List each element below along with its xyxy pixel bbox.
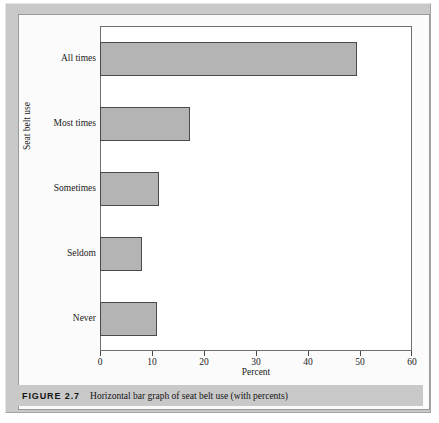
bar-series (100, 26, 412, 351)
y-axis-title: Seat belt use (22, 102, 32, 150)
figure-caption-text: Horizontal bar graph of seat belt use (w… (90, 391, 288, 401)
bar-row (100, 302, 412, 336)
bar (100, 107, 190, 141)
x-axis-tick-label: 30 (251, 357, 261, 367)
category-label: Never (10, 314, 96, 324)
bar-row (100, 237, 412, 271)
bar-row (100, 107, 412, 141)
figure-container: All timesMost timesSometimesSeldomNever … (0, 0, 439, 423)
x-axis-tick (100, 351, 101, 356)
x-axis-tick (152, 351, 153, 356)
bar (100, 302, 157, 336)
bar-row (100, 42, 412, 76)
x-axis-tick (411, 351, 412, 356)
bar (100, 42, 357, 76)
x-axis-tick-label: 20 (199, 357, 209, 367)
x-axis-tick-label: 10 (147, 357, 157, 367)
bar (100, 237, 142, 271)
category-label: Sometimes (10, 184, 96, 194)
x-axis-tick (360, 351, 361, 356)
x-axis-tick (256, 351, 257, 356)
category-label: Seldom (10, 249, 96, 259)
x-axis-tick-label: 0 (98, 357, 103, 367)
x-axis-tick-label: 40 (303, 357, 313, 367)
x-axis-tick (204, 351, 205, 356)
figure-number: FIGURE 2.7 (22, 391, 80, 401)
category-label: All times (10, 54, 96, 64)
bar (100, 172, 159, 206)
x-axis-tick-label: 50 (355, 357, 365, 367)
y-axis-category-labels: All timesMost timesSometimesSeldomNever (6, 26, 96, 351)
figure-caption-bar: FIGURE 2.7 Horizontal bar graph of seat … (13, 385, 423, 406)
x-axis-tick (308, 351, 309, 356)
x-axis-tick-label: 60 (407, 357, 417, 367)
x-axis-title: Percent (100, 367, 412, 377)
bar-row (100, 172, 412, 206)
